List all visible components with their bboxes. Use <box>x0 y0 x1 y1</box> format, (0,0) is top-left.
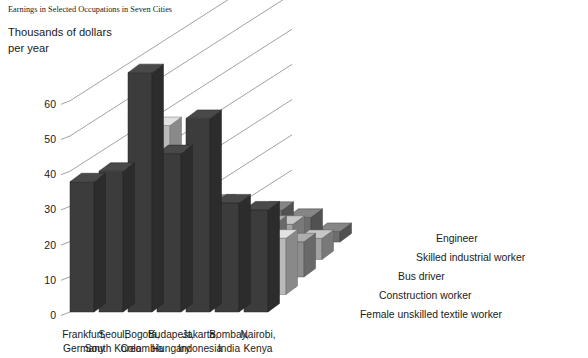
y-tick-label: 10 <box>44 274 56 286</box>
y-tick-label: 0 <box>50 309 56 321</box>
y-tick-label: 60 <box>44 98 56 110</box>
y-tick-label: 40 <box>44 168 56 180</box>
y-tick-label: 50 <box>44 133 56 145</box>
city-label-line2: Indonesia <box>178 343 223 354</box>
y-axis-label-line1: Thousands of dollars <box>8 26 112 38</box>
legend-label: Construction worker <box>379 290 472 301</box>
y-tick-label: 30 <box>44 203 56 215</box>
legend-label: Skilled industrial worker <box>416 252 526 263</box>
city-label-line1: Seoul, <box>99 329 128 340</box>
legend-label: Bus driver <box>398 271 445 282</box>
y-axis-label-line2: per year <box>8 42 49 54</box>
bar <box>70 173 106 312</box>
city-label-line2: Kenya <box>244 343 273 354</box>
chart-canvas: 0102030405060 Earnings in Selected Occup… <box>0 0 588 358</box>
legend-label: Engineer <box>436 233 478 244</box>
y-tick-label: 20 <box>44 239 56 251</box>
chart-title: Earnings in Selected Occupations in Seve… <box>8 5 172 14</box>
city-label-line1: Nairobi, <box>240 329 275 340</box>
legend-label: Female unskilled textile worker <box>360 309 503 320</box>
city-label-line2: India <box>218 343 240 354</box>
earnings-3d-bar-chart: 0102030405060 Earnings in Selected Occup… <box>0 0 588 358</box>
